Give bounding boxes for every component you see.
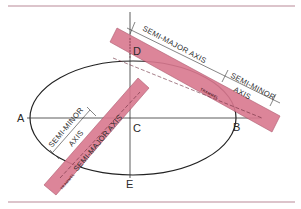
- upper-trammel-strip: [110, 28, 280, 132]
- point-b-label: B: [233, 121, 240, 133]
- point-c-label: C: [133, 122, 141, 134]
- point-d-label: D: [133, 45, 141, 57]
- lower-dim-ext-a: [50, 150, 59, 159]
- upper-trammel: TRAMMEL SEMI-MAJOR AXIS SEMI-MINOR AXIS: [110, 22, 280, 132]
- upper-dim-ext-left: [130, 22, 135, 34]
- upper-dim-ext-mid: [222, 70, 228, 82]
- point-a-label: A: [17, 112, 25, 124]
- point-e-label: E: [126, 178, 133, 190]
- trammel-ellipse-diagram: TRAMMEL SEMI-MAJOR AXIS SEMI-MINOR AXIS …: [0, 0, 301, 209]
